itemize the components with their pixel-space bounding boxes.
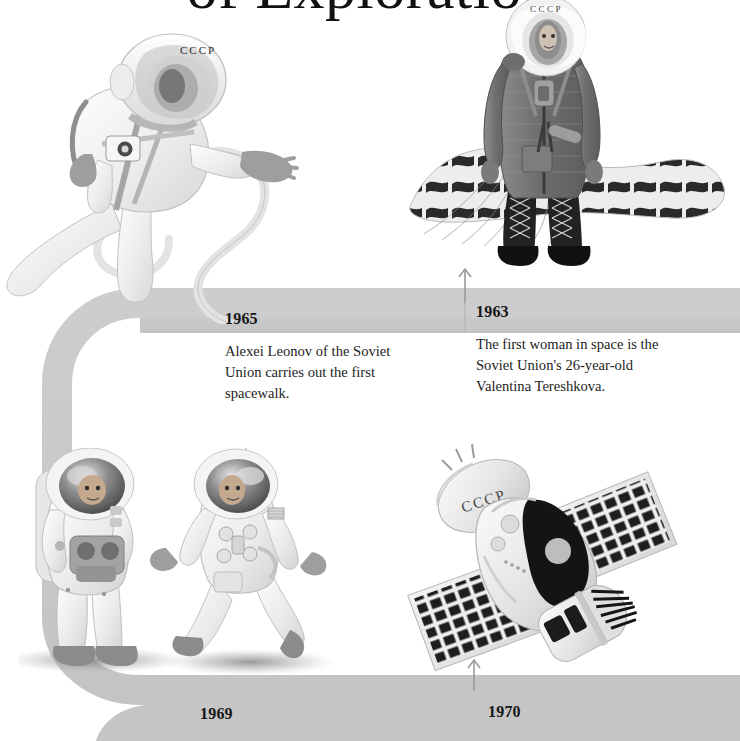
- illustration-leonov-spacewalk: CCCP: [0, 24, 314, 324]
- illustration-tereshkova: CCCP: [398, 0, 728, 286]
- year-label-1965: 1965: [225, 310, 258, 328]
- illustration-apollo-astronauts: [18, 448, 368, 688]
- year-label-1963: 1963: [476, 303, 509, 321]
- infographic-page: of Exploration: [0, 0, 740, 741]
- astronaut-walking: [150, 448, 326, 658]
- illustration-space-station: CCCP: [388, 438, 698, 690]
- event-text-1965: Alexei Leonov of the Soviet Union carrie…: [225, 341, 425, 404]
- year-label-1970: 1970: [488, 703, 521, 721]
- timeline-tick-1963: [464, 303, 466, 333]
- helmet-cccp-label: CCCP: [180, 44, 216, 56]
- year-label-1969: 1969: [200, 705, 233, 723]
- event-text-1963: The first woman in space is the Soviet U…: [476, 334, 681, 397]
- astronaut-standing: [36, 448, 138, 666]
- helmet-cccp-label: CCCP: [530, 4, 563, 14]
